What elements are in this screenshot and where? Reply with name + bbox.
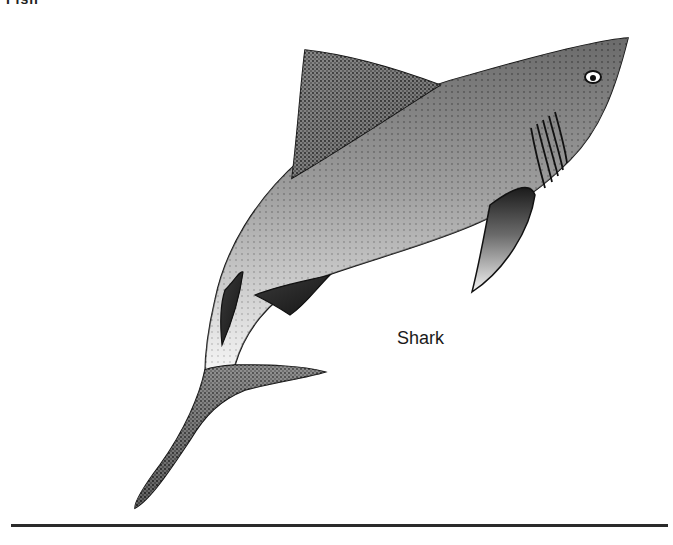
shark-illustration bbox=[0, 0, 673, 545]
bottom-divider bbox=[11, 524, 668, 527]
illustration-caption: Shark bbox=[397, 328, 444, 349]
